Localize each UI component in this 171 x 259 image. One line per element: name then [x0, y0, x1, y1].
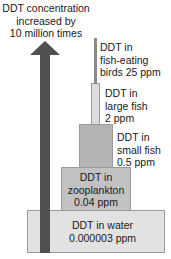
arrow-caption-line1: DDT concentration — [0, 2, 92, 15]
arrow-caption-line3: 10 million times — [0, 27, 92, 40]
birds-line2: fish-eating — [100, 54, 171, 67]
birds-line1: DDT in — [100, 41, 171, 54]
arrow-caption: DDT concentration increased by 10 millio… — [0, 2, 92, 40]
small-fish-line3: 0.5 ppm — [117, 156, 171, 169]
large-fish-line3: 2 ppm — [105, 112, 171, 125]
level-small-fish-box — [79, 124, 113, 168]
birds-line3: birds 25 ppm — [100, 66, 171, 79]
level-zooplankton-label: DDT in zooplankton 0.04 ppm — [61, 171, 131, 209]
small-fish-line2: small fish — [117, 144, 171, 157]
zooplankton-line3: 0.04 ppm — [61, 196, 131, 209]
up-arrow-icon — [29, 40, 61, 254]
level-large-fish-box — [91, 83, 100, 125]
level-birds-bar — [94, 38, 97, 84]
large-fish-line1: DDT in — [105, 87, 171, 100]
small-fish-line1: DDT in — [117, 131, 171, 144]
large-fish-line2: large fish — [105, 100, 171, 113]
level-birds-label: DDT in fish-eating birds 25 ppm — [100, 41, 171, 79]
level-small-fish-label: DDT in small fish 0.5 ppm — [117, 131, 171, 169]
zooplankton-line2: zooplankton — [61, 184, 131, 197]
arrow-caption-line2: increased by — [0, 15, 92, 28]
level-large-fish-label: DDT in large fish 2 ppm — [105, 87, 171, 125]
zooplankton-line1: DDT in — [61, 171, 131, 184]
